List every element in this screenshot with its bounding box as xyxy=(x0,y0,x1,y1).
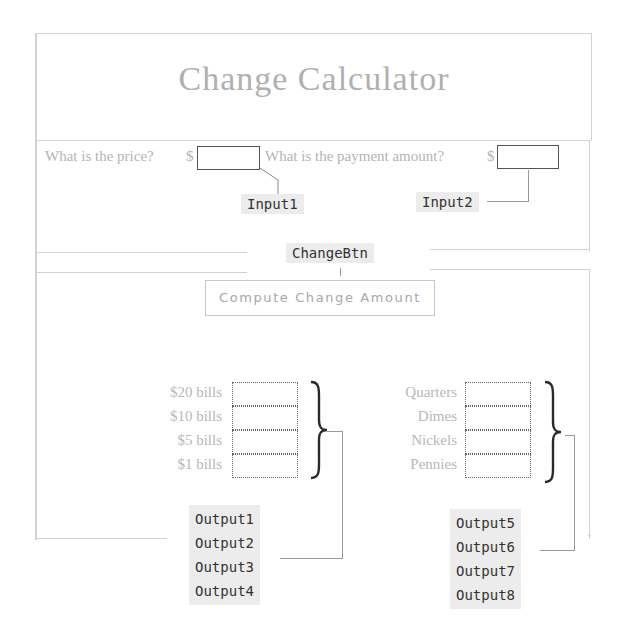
bills-leader-vertical xyxy=(342,431,343,558)
output2-annotation: Output2 xyxy=(195,531,254,555)
input-section-bottom-left xyxy=(37,252,247,253)
price-currency: $ xyxy=(186,148,194,165)
bills-20-label: $20 bills xyxy=(132,384,222,401)
output-section-right xyxy=(589,269,590,539)
input2-leader-horizontal xyxy=(487,201,529,202)
pennies-output xyxy=(465,454,531,478)
outputs-right-annotation: Output5 Output6 Output7 Output8 xyxy=(450,509,521,609)
compute-change-button[interactable]: Compute Change Amount xyxy=(205,280,435,316)
bills-1-output xyxy=(232,454,298,478)
output-section-bottom-right xyxy=(588,535,591,536)
quarters-output xyxy=(465,382,531,406)
output6-annotation: Output6 xyxy=(456,535,515,559)
quarters-label: Quarters xyxy=(367,384,457,401)
bills-10-output xyxy=(232,406,298,430)
input-section-bottom-right xyxy=(430,249,590,250)
output-section-bottom xyxy=(37,538,167,539)
output1-annotation: Output1 xyxy=(195,507,254,531)
payment-input[interactable] xyxy=(497,145,559,169)
payment-currency: $ xyxy=(487,148,495,165)
price-prompt: What is the price? xyxy=(45,148,154,165)
coins-brace-icon xyxy=(542,380,564,485)
nickels-label: Nickels xyxy=(367,432,457,449)
output7-annotation: Output7 xyxy=(456,559,515,583)
bills-leader-top xyxy=(327,431,342,432)
output8-annotation: Output8 xyxy=(456,583,515,607)
changebtn-annotation: ChangeBtn xyxy=(286,243,374,263)
bills-brace-icon xyxy=(308,380,330,480)
output-section-top-left xyxy=(37,272,247,273)
payment-prompt: What is the payment amount? xyxy=(265,148,444,165)
bills-5-output xyxy=(232,430,298,454)
price-input[interactable] xyxy=(197,146,260,170)
changebtn-leader-line xyxy=(340,268,341,276)
coins-leader-bottom xyxy=(540,550,575,551)
input-section-top xyxy=(37,140,590,141)
coins-leader-vertical xyxy=(574,435,575,550)
output-section-top-right xyxy=(430,269,590,270)
nickels-output xyxy=(465,430,531,454)
page-title: Change Calculator xyxy=(36,60,592,98)
outer-frame-left xyxy=(35,33,37,540)
outputs-left-annotation: Output1 Output2 Output3 Output4 xyxy=(189,505,260,605)
input2-annotation: Input2 xyxy=(416,192,479,212)
bills-20-output xyxy=(232,382,298,406)
dimes-output xyxy=(465,406,531,430)
bills-10-label: $10 bills xyxy=(132,408,222,425)
output3-annotation: Output3 xyxy=(195,555,254,579)
input2-leader-vertical xyxy=(528,170,529,202)
input1-leader-line xyxy=(258,166,288,196)
output5-annotation: Output5 xyxy=(456,511,515,535)
bills-5-label: $5 bills xyxy=(132,432,222,449)
dimes-label: Dimes xyxy=(367,408,457,425)
output4-annotation: Output4 xyxy=(195,579,254,603)
outer-frame-top xyxy=(35,33,592,34)
bills-leader-bottom xyxy=(280,558,343,559)
bills-1-label: $1 bills xyxy=(132,456,222,473)
pennies-label: Pennies xyxy=(367,456,457,473)
input1-annotation: Input1 xyxy=(241,194,304,214)
input-section-right xyxy=(589,140,590,252)
